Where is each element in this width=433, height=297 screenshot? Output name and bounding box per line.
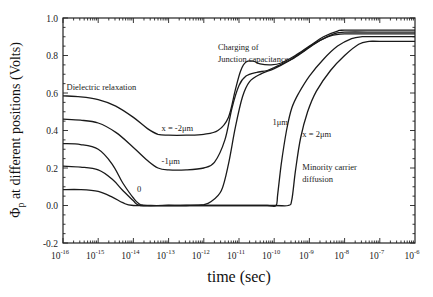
chart-annotation: Minority carrier [302, 162, 357, 172]
chart-annotation: x = -2μm [162, 123, 194, 133]
chart-annotation: 0 [137, 184, 141, 194]
y-tick-label: 0.4 [46, 126, 58, 136]
x-tick-label: 10-15 [86, 248, 104, 261]
x-tick-label: 10-10 [262, 248, 280, 261]
x-tick-label: 10-11 [227, 248, 245, 261]
curve-series-1 [63, 32, 415, 170]
x-tick-labels: 10-1610-1510-1410-1310-1210-1110-1010-91… [51, 248, 420, 261]
annotations: Dielectric relaxationx = -2μm-1μm0Chargi… [67, 42, 358, 195]
chart-annotation: -1μm [162, 156, 181, 166]
y-tick-label: 0.6 [46, 89, 58, 99]
chart: Dielectric relaxationx = -2μm-1μm0Chargi… [0, 0, 433, 297]
x-axis-title: time (sec) [207, 268, 271, 286]
chart-annotation: Charging of [218, 42, 259, 52]
y-tick-labels: -0.20.00.20.40.60.81.0 [43, 14, 58, 249]
y-tick-label: 1.0 [46, 14, 58, 24]
curve-series-4 [63, 41, 415, 206]
x-tick-label: 10-12 [192, 248, 210, 261]
x-tick-label: 10-13 [157, 248, 175, 261]
chart-annotation: diffusion [302, 174, 333, 184]
chart-annotation: Dielectric relaxation [67, 82, 137, 92]
x-tick-label: 10-6 [405, 248, 421, 261]
y-tick-label: 0.2 [46, 164, 58, 174]
y-tick-label: 0.8 [46, 51, 58, 61]
chart-annotation: x = 2μm [302, 129, 331, 139]
y-tick-label: 0.0 [46, 201, 58, 211]
y-tick-label: -0.2 [43, 239, 58, 249]
x-tick-label: 10-8 [334, 248, 349, 261]
chart-annotation: Junction capacitance [218, 54, 289, 64]
chart-annotation: 1μm [272, 117, 288, 127]
x-tick-label: 10-16 [51, 248, 70, 261]
x-tick-label: 10-7 [369, 248, 385, 261]
x-tick-label: 10-9 [299, 248, 314, 261]
y-axis-title: Φp at different positions (Volts) [8, 42, 26, 218]
x-tick-label: 10-14 [121, 248, 140, 261]
